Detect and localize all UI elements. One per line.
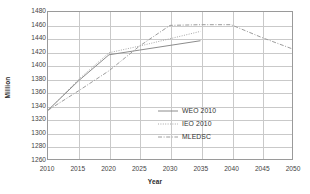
legend-line-swatch-icon	[158, 133, 178, 141]
y-tick-label: 1260	[16, 157, 46, 164]
x-tick-label: 2015	[65, 166, 91, 173]
series-line	[48, 25, 292, 111]
y-tick-label: 1400	[16, 62, 46, 69]
line-chart: Million 12601280130013201340136013801400…	[0, 0, 310, 194]
x-tick-label: 2040	[219, 166, 245, 173]
chart-legend: WEO 2010IEO 2010MLEDSC	[158, 104, 244, 143]
y-axis-title: Million	[4, 68, 11, 108]
y-tick-label: 1300	[16, 130, 46, 137]
y-tick-label: 1380	[16, 75, 46, 82]
x-tick-label: 2050	[280, 166, 306, 173]
x-tick-label: 2030	[157, 166, 183, 173]
y-tick-label: 1440	[16, 35, 46, 42]
series-line	[48, 31, 201, 110]
y-tick-label: 1460	[16, 21, 46, 28]
y-tick-label: 1420	[16, 48, 46, 55]
legend-label: MLEDSC	[182, 133, 211, 140]
legend-item[interactable]: WEO 2010	[158, 104, 244, 117]
x-tick-label: 2020	[96, 166, 122, 173]
legend-item[interactable]: IEO 2010	[158, 117, 244, 130]
x-axis-title: Year	[0, 178, 310, 185]
y-tick-label: 1280	[16, 143, 46, 150]
x-tick-label: 2025	[126, 166, 152, 173]
legend-item[interactable]: MLEDSC	[158, 130, 244, 143]
legend-line-swatch-icon	[158, 107, 178, 115]
y-tick-label: 1340	[16, 103, 46, 110]
x-tick-label: 2010	[34, 166, 60, 173]
x-tick-label: 2035	[188, 166, 214, 173]
x-tick-label: 2045	[249, 166, 275, 173]
legend-line-swatch-icon	[158, 120, 178, 128]
x-axis-tick-labels: 201020152020202520302035204020452050	[0, 166, 310, 178]
y-tick-label: 1320	[16, 116, 46, 123]
legend-label: IEO 2010	[182, 120, 212, 127]
y-tick-label: 1480	[16, 8, 46, 15]
legend-label: WEO 2010	[182, 107, 216, 114]
series-line	[48, 41, 201, 110]
y-tick-label: 1360	[16, 89, 46, 96]
